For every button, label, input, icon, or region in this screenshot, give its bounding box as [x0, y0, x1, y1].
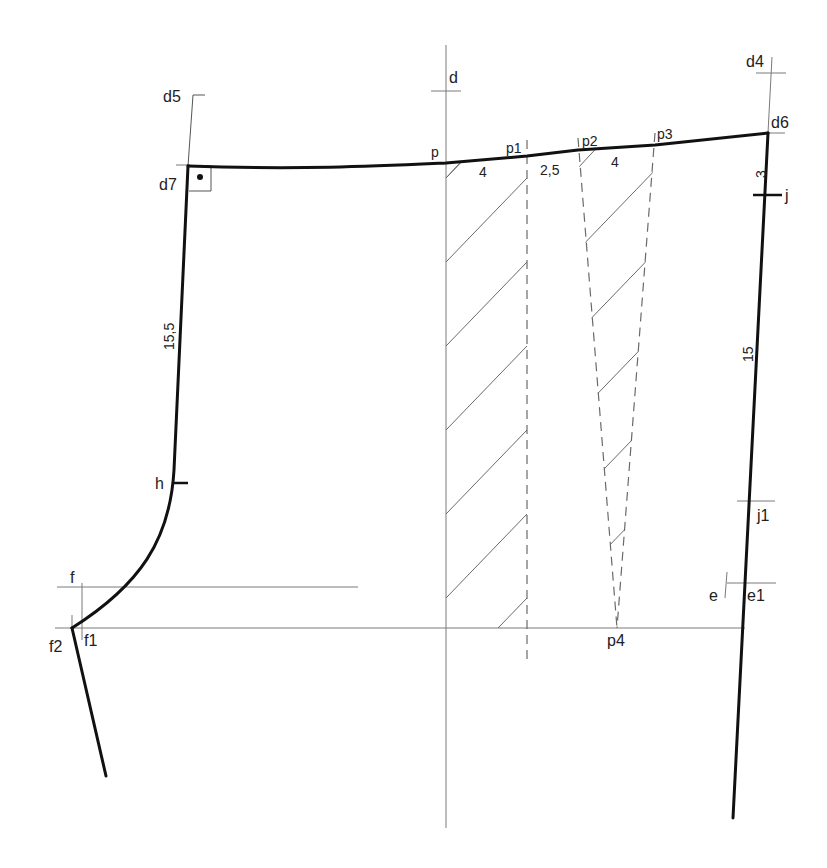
measure-p2-p3: 4: [611, 154, 619, 170]
label-j: j: [784, 187, 789, 204]
label-f: f: [70, 569, 75, 586]
d5-construction-line: [188, 95, 205, 166]
hatched-panel: [446, 94, 527, 766]
measurement-labels: 4 2,5 4 3 15 15,5: [161, 154, 769, 362]
crotch-line: [72, 628, 106, 776]
e-vertical-tick: [725, 572, 727, 598]
center-back-seam: [72, 166, 188, 628]
label-d6: d6: [771, 114, 789, 131]
label-h: h: [155, 475, 164, 492]
label-j1: j1: [756, 507, 770, 524]
label-d4: d4: [746, 53, 764, 70]
dart: [578, 133, 660, 660]
label-e1: e1: [747, 587, 765, 604]
dart-left-leg: [578, 138, 617, 628]
measure-d7-h: 15,5: [161, 323, 177, 350]
dart-right-leg: [617, 133, 655, 628]
label-f1: f1: [84, 632, 97, 649]
label-e: e: [709, 587, 718, 604]
dot-icon: [197, 174, 203, 180]
label-d5: d5: [163, 88, 181, 105]
tick-marks: [174, 195, 782, 483]
label-p1: p1: [506, 140, 522, 156]
label-p: p: [431, 144, 439, 160]
label-d7: d7: [159, 176, 177, 193]
side-seam: [733, 133, 768, 818]
label-d: d: [449, 69, 458, 86]
measure-d6-j: 3: [753, 170, 769, 178]
waistline: [188, 133, 768, 168]
measure-j-j1: 15: [740, 346, 756, 362]
pattern-diagram: d d4 d5 d6 d7 p p1 p2 p3 p4 j j1 e e1 h …: [0, 0, 827, 868]
right-angle-marker: [189, 166, 211, 191]
label-f2: f2: [49, 638, 62, 655]
measure-p1-p2: 2,5: [540, 162, 560, 178]
label-p4: p4: [607, 632, 625, 649]
label-p2: p2: [582, 133, 598, 149]
measure-p-p1: 4: [479, 164, 487, 180]
pattern-outline: [72, 133, 768, 818]
construction-lines: [55, 45, 786, 828]
label-p3: p3: [657, 126, 673, 142]
